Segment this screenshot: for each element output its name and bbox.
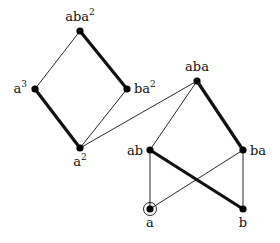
diagram-svg: aba2a3ba2a2abaabbaab bbox=[0, 0, 280, 243]
edges-layer bbox=[35, 31, 243, 209]
node-ab bbox=[146, 146, 153, 153]
node-label-a2: a2 bbox=[73, 152, 87, 169]
edge-aba2-ba2 bbox=[80, 31, 127, 89]
node-label-a3: a3 bbox=[14, 79, 28, 96]
node-ba bbox=[239, 146, 246, 153]
node-b bbox=[239, 205, 246, 212]
node-label-aba2: aba2 bbox=[65, 7, 95, 24]
node-label-ba2: ba2 bbox=[134, 79, 156, 96]
node-label-b: b bbox=[239, 215, 247, 230]
node-a3 bbox=[31, 85, 38, 92]
nodes-layer bbox=[31, 27, 246, 215]
edge-aba-ab bbox=[150, 81, 197, 150]
edge-a3-a2 bbox=[35, 89, 80, 148]
node-label-a: a bbox=[146, 215, 154, 230]
node-ba2 bbox=[123, 85, 130, 92]
node-label-ab: ab bbox=[127, 143, 143, 158]
labels-layer: aba2a3ba2a2abaabbaab bbox=[14, 7, 267, 230]
lattice-diagram: aba2a3ba2a2abaabbaab bbox=[0, 0, 280, 243]
edge-aba2-a3 bbox=[35, 31, 80, 89]
edge-ba2-a2 bbox=[80, 89, 127, 148]
node-a2 bbox=[76, 144, 83, 151]
node-aba bbox=[193, 77, 200, 84]
node-label-aba: aba bbox=[185, 59, 209, 74]
node-aba2 bbox=[76, 27, 83, 34]
node-a bbox=[146, 205, 153, 212]
edge-aba-ba bbox=[197, 81, 243, 150]
node-label-ba: ba bbox=[250, 143, 266, 158]
